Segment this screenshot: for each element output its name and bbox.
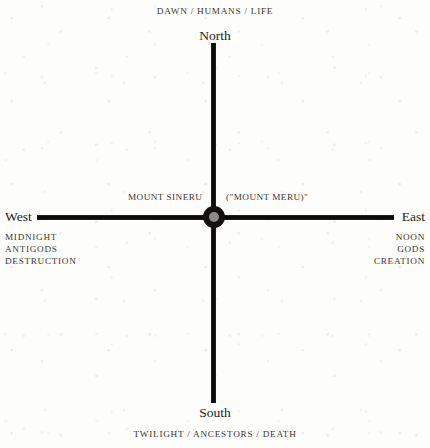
center-node-mount-sineru <box>203 206 225 228</box>
attribute-line: MIDNIGHT <box>5 231 77 243</box>
attribute-line: ANTIGODS <box>5 243 77 255</box>
cardinal-label-south: South <box>0 406 430 420</box>
center-node-core <box>209 212 219 222</box>
cardinal-label-north: North <box>0 29 430 43</box>
attribute-line: DESTRUCTION <box>5 255 77 267</box>
cardinal-label-east: East <box>402 210 425 224</box>
cardinal-label-west: West <box>5 210 32 224</box>
attribute-line: GODS <box>374 243 425 255</box>
mount-sineru-label: MOUNT SINERU <box>128 193 202 202</box>
west-attributes-list: MIDNIGHTANTIGODSDESTRUCTION <box>5 231 77 268</box>
top-caption: DAWN / HUMANS / LIFE <box>0 7 430 16</box>
attribute-line: CREATION <box>374 255 425 267</box>
mount-meru-label: ("MOUNT MERU)" <box>226 193 308 202</box>
attribute-line: NOON <box>374 231 425 243</box>
cosmology-diagram: DAWN / HUMANS / LIFE North MOUNT SINERU … <box>0 0 430 448</box>
east-attributes-list: NOONGODSCREATION <box>374 231 425 268</box>
bottom-caption: TWILIGHT / ANCESTORS / DEATH <box>0 430 430 439</box>
